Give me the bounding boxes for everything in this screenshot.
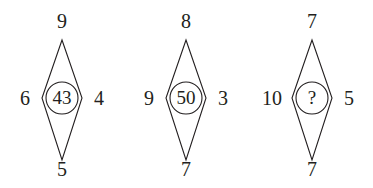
figure-2-left-value: 9: [124, 88, 154, 108]
figure-2-center-value: 50: [156, 88, 216, 108]
figure-3-left-value: 10: [248, 88, 282, 108]
diamond-figure-3: 7 10 5 7 ?: [248, 0, 372, 188]
figure-1-bottom-value: 5: [0, 159, 124, 179]
figure-2-top-value: 8: [124, 11, 248, 31]
figure-3-center-value: ?: [282, 88, 342, 108]
diamond-figure-2: 8 9 3 7 50: [124, 0, 248, 188]
figure-2-right-value: 3: [218, 88, 248, 108]
figure-2-bottom-value: 7: [124, 159, 248, 179]
diamond-figure-1: 9 6 4 5 43: [0, 0, 124, 188]
puzzle-board: 9 6 4 5 43 8 9 3 7 50 7 10 5 7 ?: [0, 0, 373, 188]
figure-3-top-value: 7: [250, 11, 373, 31]
figure-1-left-value: 6: [0, 88, 30, 108]
figure-1-center-value: 43: [32, 88, 92, 108]
figure-1-top-value: 9: [0, 11, 124, 31]
figure-1-right-value: 4: [94, 88, 124, 108]
figure-3-right-value: 5: [344, 88, 373, 108]
figure-3-bottom-value: 7: [250, 159, 373, 179]
